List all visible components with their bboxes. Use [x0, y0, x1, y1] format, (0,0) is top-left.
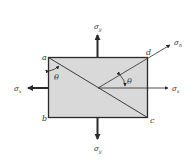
sigma-x-right-label: σx [172, 85, 180, 94]
sigma-n-label: σn [174, 39, 182, 48]
stress-element-diagram: a b c d θ θ σy σy σx σx σn [0, 0, 194, 165]
theta-label-right: θ [127, 77, 132, 86]
sigma-x-left-label: σx [14, 85, 22, 94]
corner-label-a: a [42, 53, 47, 62]
corner-label-b: b [42, 114, 47, 123]
sigma-y-top-label: σy [94, 23, 102, 33]
corner-label-c: c [150, 116, 155, 125]
sigma-y-bottom-label: σy [94, 145, 102, 155]
theta-label-left: θ [54, 73, 59, 82]
corner-label-d: d [146, 48, 151, 57]
